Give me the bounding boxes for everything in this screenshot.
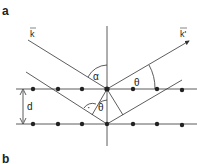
panel-label-a: a (2, 4, 9, 18)
reflected-ray-bottom (107, 80, 182, 124)
label-k: k (30, 29, 35, 39)
path-diff-line-right (107, 89, 123, 115)
bragg-diagram: a k k' α θ (0, 0, 197, 164)
panel-label-b: b (2, 152, 9, 164)
right-angle-dot: · (87, 102, 90, 113)
label-k-prime: k' (180, 29, 187, 39)
label-theta-inner: θ (98, 102, 104, 113)
label-d: d (27, 101, 33, 112)
bottom-row-atoms (31, 122, 184, 127)
label-theta-top: θ (134, 77, 140, 88)
theta-arc-top (149, 65, 155, 89)
reflected-ray-top (107, 41, 189, 89)
label-alpha: α (93, 71, 99, 82)
